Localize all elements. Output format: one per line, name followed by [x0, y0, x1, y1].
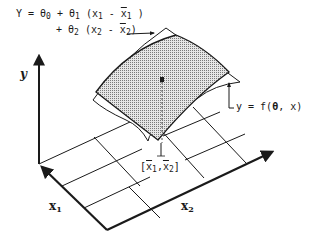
x1-axis-label: x1	[49, 199, 62, 214]
eq-paren: (x	[79, 24, 97, 35]
surface-label-rest: , x)	[278, 101, 302, 112]
x2-sub: 2	[188, 204, 194, 214]
equation-line-2: + θ2 (x2 - x2)	[56, 24, 137, 39]
mean-point-label: [x1,x2]	[140, 161, 180, 176]
center-point	[160, 77, 164, 82]
surface-label-text: y = f(	[236, 101, 272, 112]
bracket-close: ]	[174, 161, 180, 172]
eq-plus-theta: + θ	[56, 24, 74, 35]
y-axis-label: y	[20, 67, 27, 81]
equation-line-1: Y = θ0 + θ1 (x1 - x1 )	[16, 8, 144, 23]
x1-sub: 1	[56, 204, 62, 214]
eq-paren: (x	[80, 8, 98, 19]
regression-surface-diagram	[0, 0, 313, 241]
surface-function-label: y = f(θ, x)	[236, 101, 302, 113]
x2-axis-label: x2	[181, 199, 194, 214]
eq-y-theta: Y = θ	[16, 8, 46, 19]
eq-close: )	[131, 24, 137, 35]
eq-close: )	[132, 8, 144, 19]
eq-minus: -	[103, 8, 121, 19]
eq-plus-theta: + θ	[51, 8, 75, 19]
eq-minus: -	[102, 24, 120, 35]
x2-axis	[107, 152, 272, 230]
